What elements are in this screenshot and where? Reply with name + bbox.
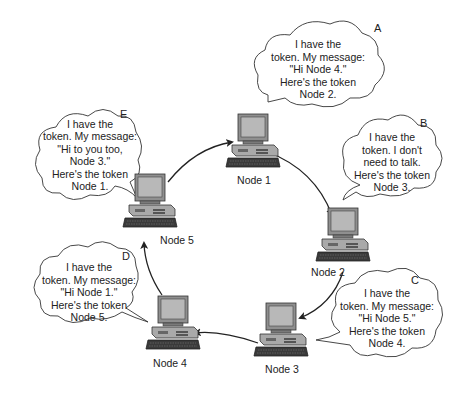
bubble-d-letter: D bbox=[122, 250, 130, 262]
bubble-b-letter: B bbox=[420, 117, 427, 129]
bubble-e-letter: E bbox=[120, 108, 127, 120]
arrow-node3-to-node4 bbox=[195, 332, 258, 343]
bubble-a-text: I have the token. My message: "Hi Node 4… bbox=[263, 38, 373, 101]
arrow-node4-to-node5 bbox=[144, 243, 162, 295]
node-4-label: Node 4 bbox=[140, 357, 200, 369]
node-3-label: Node 3 bbox=[252, 363, 312, 375]
bubble-d-text: I have the token. My message: "Hi Node 1… bbox=[38, 261, 140, 324]
bubble-e-text: I have the token. My message: "Hi to you… bbox=[38, 118, 142, 192]
node-2-label: Node 2 bbox=[298, 266, 358, 278]
bubble-a-letter: A bbox=[374, 22, 381, 34]
node-1-label: Node 1 bbox=[224, 174, 284, 186]
computer-node-4 bbox=[146, 296, 200, 349]
arrow-node5-to-node1 bbox=[168, 142, 232, 182]
bubble-c-text: I have the token. My message: "Hi Node 5… bbox=[334, 287, 440, 350]
bubble-c-letter: C bbox=[411, 274, 419, 286]
computer-node-1 bbox=[226, 114, 280, 167]
computer-node-2 bbox=[316, 208, 370, 261]
node-5-label: Node 5 bbox=[147, 234, 207, 246]
computer-node-3 bbox=[254, 303, 308, 356]
bubble-b-text: I have the token. I don't need to talk. … bbox=[346, 131, 438, 194]
